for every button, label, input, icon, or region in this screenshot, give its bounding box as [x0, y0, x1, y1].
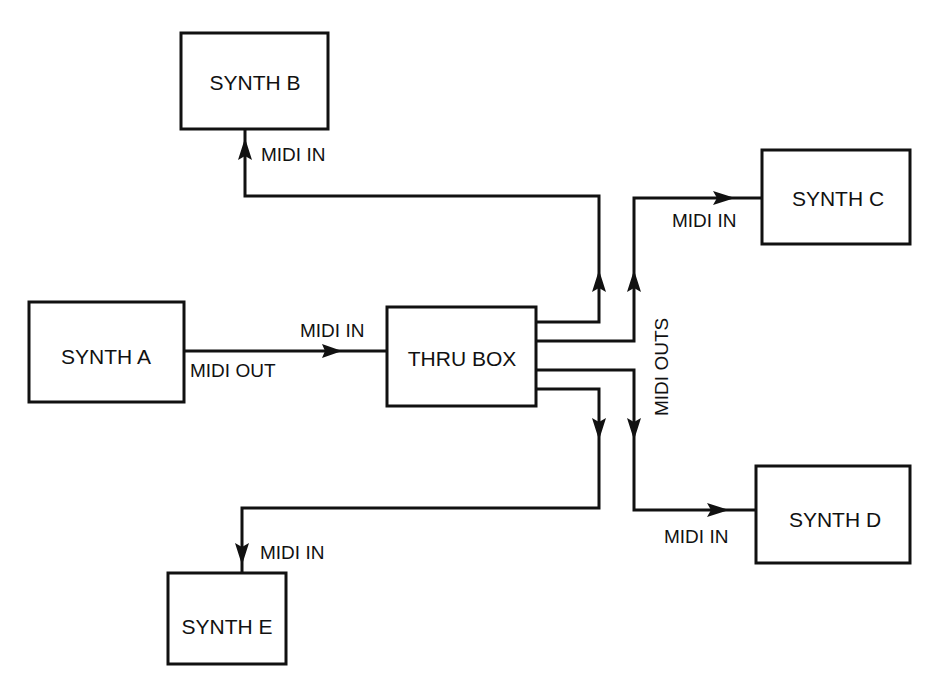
synth-c-midi-in-label: MIDI IN [672, 210, 736, 231]
midi-out-label: MIDI OUT [190, 360, 276, 381]
node-thru-box: THRU BOX [387, 307, 536, 406]
synth-e-label: SYNTH E [181, 615, 272, 638]
midi-outs-label: MIDI OUTS [651, 318, 672, 416]
synth-d-midi-in-label: MIDI IN [664, 526, 728, 547]
node-synth-d: SYNTH D [756, 466, 910, 563]
thru-box-label: THRU BOX [408, 347, 517, 370]
synth-a-label: SYNTH A [61, 345, 151, 368]
wire-thru-d [536, 370, 756, 510]
synth-d-label: SYNTH D [789, 508, 881, 531]
thru-midi-in-label: MIDI IN [300, 320, 364, 341]
edge-thru-to-d [536, 370, 756, 517]
synth-b-midi-in-label: MIDI IN [261, 144, 325, 165]
midi-thru-diagram: SYNTH B SYNTH C SYNTH A THRU BOX SYNTH D… [0, 0, 944, 692]
node-synth-e: SYNTH E [168, 573, 286, 664]
edge-a-to-thru [184, 344, 387, 358]
synth-b-label: SYNTH B [209, 71, 300, 94]
synth-e-midi-in-label: MIDI IN [260, 542, 324, 563]
arrow-right-icon [322, 344, 342, 358]
node-synth-a: SYNTH A [29, 302, 184, 402]
node-synth-b: SYNTH B [181, 33, 328, 129]
node-synth-c: SYNTH C [762, 150, 910, 244]
synth-c-label: SYNTH C [792, 187, 884, 210]
